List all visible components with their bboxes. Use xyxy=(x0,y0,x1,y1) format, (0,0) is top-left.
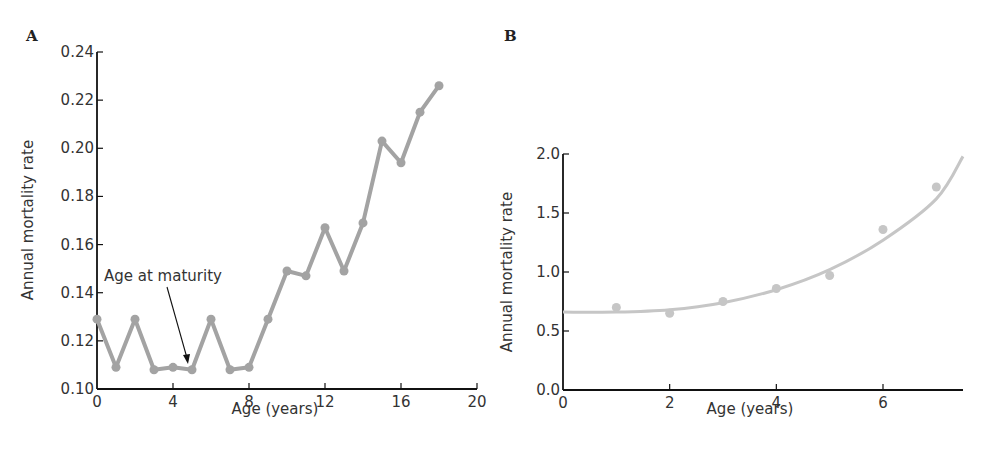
y-tick-label: 0.22 xyxy=(61,91,94,109)
x-tick-label: 16 xyxy=(391,393,410,411)
panel-b-x-axis-title: Age (years) xyxy=(707,400,794,418)
data-point xyxy=(131,315,140,324)
panel-a-y-axis-title: Annual mortality rate xyxy=(19,140,37,300)
panel-b-data xyxy=(563,156,963,317)
data-point xyxy=(226,365,235,374)
y-tick-label: 1.0 xyxy=(536,263,560,281)
figure: A 0.100.120.140.160.180.200.220.24 04812… xyxy=(0,0,988,462)
y-tick-label: 0.20 xyxy=(61,139,94,157)
x-tick-label: 4 xyxy=(168,393,178,411)
data-point xyxy=(188,365,197,374)
data-point xyxy=(283,267,292,276)
y-tick-label: 0.5 xyxy=(536,322,560,340)
data-point xyxy=(397,158,406,167)
y-tick-label: 2.0 xyxy=(536,145,560,163)
x-tick-label: 6 xyxy=(878,394,888,412)
data-point xyxy=(321,223,330,232)
panel-a-x-axis-title: Age (years) xyxy=(232,400,319,418)
y-tick-label: 0.10 xyxy=(61,380,94,398)
panel-b-chart: B 0.00.51.01.52.0 0246 Age (years) Annua… xyxy=(498,27,963,418)
annotation-arrow-head-icon xyxy=(183,354,190,364)
y-tick-label: 0.24 xyxy=(61,43,94,61)
panel-a-data-line xyxy=(93,81,444,374)
y-tick-label: 0.12 xyxy=(61,332,94,350)
data-point xyxy=(93,315,102,324)
x-tick-label: 0 xyxy=(558,394,568,412)
y-tick-label: 0.18 xyxy=(61,187,94,205)
y-tick-label: 0.0 xyxy=(536,381,560,399)
data-point xyxy=(150,365,159,374)
panel-b-y-axis: 0.00.51.01.52.0 xyxy=(536,145,569,399)
data-point xyxy=(245,363,254,372)
x-tick-label: 0 xyxy=(92,393,102,411)
data-point xyxy=(302,271,311,280)
data-point xyxy=(169,363,178,372)
data-point xyxy=(378,137,387,146)
series-line xyxy=(563,156,963,312)
data-point xyxy=(879,225,888,234)
y-tick-label: 1.5 xyxy=(536,204,560,222)
panel-b-letter: B xyxy=(504,27,517,45)
panel-a-chart: A 0.100.120.140.160.180.200.220.24 04812… xyxy=(19,27,487,418)
y-tick-label: 0.16 xyxy=(61,236,94,254)
data-point xyxy=(340,267,349,276)
data-point xyxy=(112,363,121,372)
data-point xyxy=(264,315,273,324)
data-point xyxy=(207,315,216,324)
x-tick-label: 20 xyxy=(467,393,486,411)
panel-b-y-axis-title: Annual mortality rate xyxy=(498,192,516,352)
age-at-maturity-annotation: Age at maturity xyxy=(104,267,222,285)
panel-a-letter: A xyxy=(25,27,38,45)
annotation-arrow-shaft xyxy=(167,287,187,358)
y-tick-label: 0.14 xyxy=(61,284,94,302)
data-point xyxy=(359,218,368,227)
data-point xyxy=(416,108,425,117)
data-point xyxy=(932,183,941,192)
x-tick-label: 2 xyxy=(665,394,675,412)
data-point xyxy=(435,81,444,90)
series-line xyxy=(97,86,439,370)
